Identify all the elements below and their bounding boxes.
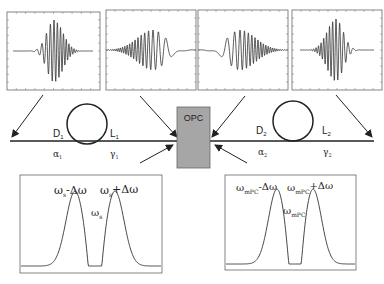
arrow-panel4-to-output [336, 95, 372, 137]
arrow-panel1-to-input [12, 95, 43, 137]
svg-text:α1: α1 [53, 149, 62, 160]
pulse-panel-3 [198, 10, 288, 90]
opc-label: OPC [184, 113, 204, 123]
opc-block: OPC [177, 107, 210, 168]
svg-text:D2: D2 [256, 125, 267, 137]
fiber-coil-1 [67, 104, 107, 144]
pulse-panel-1 [7, 12, 100, 90]
arrow-panel2-to-opc [140, 96, 177, 137]
arrow-spectrum-right-to-opc [215, 145, 247, 163]
pulse-panel-2 [106, 10, 196, 90]
spectrum-panel-left: ωs-Δω ωs+Δω ωs [20, 175, 162, 273]
svg-text:L1: L1 [110, 128, 120, 140]
svg-text:γ1: γ1 [110, 149, 119, 160]
arrow-spectrum-left-to-opc [140, 145, 173, 163]
pulse-panel-4 [292, 10, 382, 90]
label-ws-plus: ωs+Δω [100, 183, 138, 198]
fiber-coil-2 [273, 101, 313, 141]
svg-text:L2: L2 [322, 125, 332, 137]
opc-link-diagram: OPC D1 L1 α1 γ1 D2 L2 α2 γ2 ωs-Δω ωs+Δω … [0, 0, 384, 284]
spectrum-panel-right: ωmPC-Δω ωmPC+Δω ωmPC [225, 175, 356, 270]
arrow-panel3-from-opc [212, 96, 245, 137]
svg-text:α2: α2 [258, 147, 267, 158]
svg-text:D1: D1 [53, 128, 64, 140]
label-ws-minus: ωs-Δω [54, 184, 87, 198]
svg-text:γ2: γ2 [323, 147, 332, 158]
